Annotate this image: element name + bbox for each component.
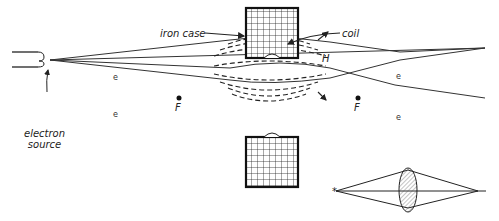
electron-source-label-line2: source <box>24 139 65 150</box>
svg-text:*: * <box>332 186 337 197</box>
electron-source <box>12 52 48 92</box>
focus-label-right: F <box>354 102 360 113</box>
focus-point-left <box>177 96 182 101</box>
coil-label: coil <box>342 28 359 39</box>
focus-point-right <box>356 96 361 101</box>
field-label: H <box>322 53 330 64</box>
electron-label: e <box>113 73 118 82</box>
coil-top <box>246 8 298 58</box>
electron-label: e <box>396 113 401 122</box>
optical-lens-inset: * <box>332 168 486 212</box>
coil-bottom <box>246 137 298 187</box>
iron-case-label: iron case <box>160 28 206 39</box>
electron-source-label: electron source <box>24 128 65 150</box>
focus-label-left: F <box>175 102 181 113</box>
electron-lens-diagram: * <box>0 0 499 221</box>
electron-source-label-line1: electron <box>24 128 65 139</box>
electron-label: e <box>396 72 401 81</box>
electron-label: e <box>113 110 118 119</box>
